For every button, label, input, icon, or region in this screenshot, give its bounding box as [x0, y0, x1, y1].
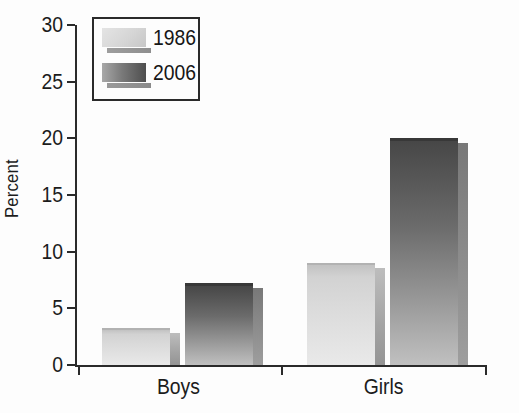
bar-1986-girls	[307, 263, 375, 365]
y-axis-tick-label-25: 25	[15, 70, 63, 94]
bar-chart-figure: Percent 051015202530 Boys Girls 1986 200…	[0, 0, 519, 413]
y-axis-tick-label-30: 30	[15, 13, 63, 37]
legend-swatch-shadow-2006	[107, 83, 151, 88]
bar-shadow-1986-girls	[375, 268, 385, 365]
legend-swatch-shadow-1986	[107, 48, 151, 53]
y-axis-tick-label-20: 20	[15, 126, 63, 150]
legend-swatch-2006	[102, 63, 146, 82]
bar-1986-boys	[102, 328, 170, 365]
y-axis-tick-15	[67, 194, 75, 196]
legend-label-1986: 1986	[153, 26, 199, 50]
x-category-label-boys: Boys	[118, 374, 238, 400]
bar-shadow-1986-boys	[170, 333, 180, 365]
bar-shadow-2006-boys	[253, 288, 263, 365]
legend-label-2006: 2006	[153, 61, 199, 85]
y-axis-tick-label-0: 0	[15, 353, 63, 377]
y-axis-tick-label-5: 5	[15, 296, 63, 320]
legend-swatch-1986	[102, 28, 146, 47]
bar-shadow-2006-girls	[458, 143, 468, 365]
y-axis-tick-10	[67, 251, 75, 253]
y-axis-tick-label-15: 15	[15, 183, 63, 207]
bar-2006-boys	[185, 283, 253, 365]
y-axis-tick-0	[67, 364, 75, 366]
chart-legend: 1986 2006	[92, 17, 200, 101]
x-category-label-girls: Girls	[324, 374, 444, 400]
y-axis-tick-label-10: 10	[15, 240, 63, 264]
x-axis-tick-1	[281, 367, 283, 375]
x-axis-tick-0	[78, 367, 80, 375]
y-axis-tick-25	[67, 81, 75, 83]
y-axis-tick-20	[67, 137, 75, 139]
y-axis-tick-5	[67, 307, 75, 309]
y-axis-tick-30	[67, 24, 75, 26]
bar-2006-girls	[390, 138, 458, 365]
x-axis-tick-2	[485, 367, 487, 375]
